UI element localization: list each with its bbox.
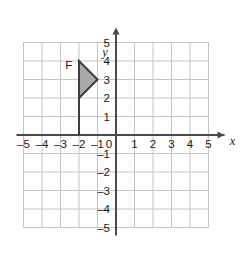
x-axis-label: x — [229, 134, 236, 148]
y-tick-label: 3 — [104, 74, 110, 86]
flag-label: F — [65, 59, 72, 71]
x-tick-label: –5 — [17, 138, 30, 150]
y-tick-label: –1 — [97, 148, 110, 160]
x-tick-label: 3 — [168, 138, 174, 150]
y-tick-label: –5 — [97, 222, 110, 234]
x-tick-label: 1 — [131, 138, 137, 150]
x-tick-label: 4 — [187, 138, 194, 150]
coordinate-plane-svg: xy–5–4–3–2–101234554321–1–2–3–4–5F — [0, 0, 246, 256]
y-tick-label: 1 — [104, 111, 110, 123]
y-tick-label: 2 — [104, 92, 110, 104]
y-axis-arrowhead — [112, 28, 119, 35]
y-tick-label: –2 — [97, 166, 110, 178]
x-axis-arrowhead — [218, 131, 225, 138]
y-tick-label: –3 — [97, 185, 110, 197]
flag-triangle — [79, 61, 98, 98]
coordinate-plane-figure: xy–5–4–3–2–101234554321–1–2–3–4–5F — [0, 0, 246, 256]
y-tick-label: –4 — [97, 203, 110, 215]
y-tick-label: 4 — [104, 55, 111, 67]
x-tick-label: –3 — [54, 138, 67, 150]
axis-lines — [17, 28, 225, 236]
x-tick-label: –4 — [36, 138, 49, 150]
x-tick-label: 2 — [150, 138, 156, 150]
x-tick-label: –2 — [73, 138, 86, 150]
x-tick-label: 5 — [205, 138, 211, 150]
y-tick-label: 5 — [104, 37, 110, 49]
